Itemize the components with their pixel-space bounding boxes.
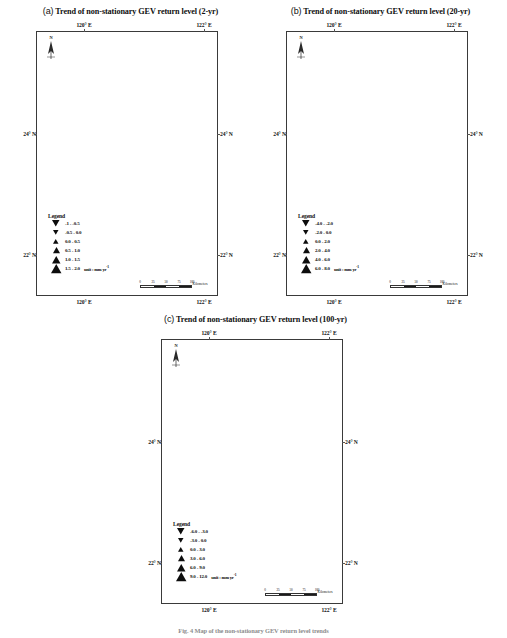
legend-unit: unit : mm yr-1 [211, 573, 236, 580]
tick-top-120 [334, 29, 335, 32]
tick-right-22 [467, 255, 470, 256]
panel-b-title-text: Trend of non-stationary GEV return level… [303, 7, 470, 16]
panel-b-axis-top-right: 122° E [446, 22, 461, 28]
north-arrow-icon [294, 40, 308, 60]
tick-right-24 [467, 134, 470, 135]
north-arrow-icon [44, 40, 58, 60]
down-triangle-icon [298, 230, 314, 235]
tick-left-22 [159, 563, 162, 564]
scalebar-tick-label: 50 [415, 280, 418, 284]
up-triangle-icon [298, 239, 314, 244]
legend-entry: 0.5 - 1.0 [48, 246, 109, 255]
panel-c-compass: N [169, 343, 183, 368]
legend-entry: 0.0 - 2.0 [298, 237, 359, 246]
legend-entry: 3.0 - 6.0 [173, 554, 236, 563]
panel-b-tag: (b) [291, 6, 302, 16]
up-triangle-icon [173, 547, 189, 552]
figure-root: (a) Trend of non-stationary GEV return l… [0, 0, 507, 638]
tick-right-24 [217, 134, 220, 135]
panel-a-axis-bottom-right: 122° E [196, 299, 211, 305]
legend-entry-label: 0.0 - 2.0 [315, 239, 330, 244]
legend-entries: -1 - -0.5-0.5 - 0.00.0 - 0.50.5 - 1.01.0… [48, 219, 109, 273]
legend-unit: unit : mm yr-1 [84, 265, 109, 272]
panel-a-axis-top-right: 122° E [196, 22, 211, 28]
panel-a-axis-bottom-left: 120° E [76, 299, 91, 305]
panel-c-axis-top-right: 122° E [321, 330, 336, 336]
panel-b-axis-top-left: 120° E [326, 22, 341, 28]
legend-entry-label: 0.5 - 1.0 [65, 248, 80, 253]
scalebar-tick-label: 0 [264, 588, 266, 592]
legend-entry-label: -1 - -0.5 [65, 221, 79, 226]
scalebar-tick-label: 0 [389, 280, 391, 284]
panel-a-title-text: Trend of non-stationary GEV return level… [55, 7, 218, 16]
down-triangle-icon [173, 528, 189, 535]
legend-entry: 4.0 - 6.0 [298, 255, 359, 264]
legend-entry: -1 - -0.5 [48, 219, 109, 228]
scalebar-tick-label: 50 [165, 280, 168, 284]
panel-a-axis-top-left: 120° E [76, 22, 91, 28]
panel-b-title: (b) Trend of non-stationary GEV return l… [258, 6, 503, 16]
panel-c-title: (c) Trend of non-stationary GEV return l… [133, 314, 378, 324]
legend-entry: -3.0 - 0.0 [173, 536, 236, 545]
panel-a-tag: (a) [43, 6, 54, 16]
scalebar-tick-label: 50 [290, 588, 293, 592]
panel-a-axis-left-bottom: 22° N [8, 252, 36, 258]
legend-entry-label: -6.0 - -3.0 [190, 529, 208, 534]
tick-left-22 [284, 255, 287, 256]
panel-b-axis-right-bottom: 22° N [470, 252, 483, 258]
tick-top-122 [329, 337, 330, 340]
scalebar-unit: Kilometers [318, 590, 333, 594]
up-triangle-icon [48, 256, 64, 263]
north-arrow-icon [169, 348, 183, 368]
scalebar-tick-label: 75 [303, 588, 306, 592]
up-triangle-icon [298, 256, 314, 263]
panel-b-compass: N [294, 35, 308, 60]
scalebar-ticks: 0255075100 [140, 280, 192, 285]
panel-a-scalebar: 0255075100 Kilometers [140, 280, 192, 288]
tick-top-120 [84, 29, 85, 32]
tick-left-24 [34, 134, 37, 135]
scalebar-tick-label: 0 [139, 280, 141, 284]
up-triangle-icon [173, 555, 189, 561]
panel-b-axis-left-bottom: 22° N [258, 252, 286, 258]
legend-entry: 2.0 - 4.0 [298, 246, 359, 255]
legend-entry-label: -4.0 - -2.0 [315, 221, 333, 226]
panel-b-axis-bottom-left: 120° E [326, 299, 341, 305]
legend-entry-label: 9.0 - 12.0 [190, 574, 207, 579]
panel-a-compass: N [44, 35, 58, 60]
panel-b-legend: Legend -4.0 - -2.0-2.0 - 0.00.0 - 2.02.0… [298, 213, 359, 273]
panel-c-axis-left-bottom: 22° N [133, 560, 161, 566]
panel-c-tag: (c) [164, 314, 174, 324]
panel-c-title-text: Trend of non-stationary GEV return level… [176, 315, 347, 324]
scalebar-tick-label: 25 [277, 588, 280, 592]
scalebar-bar [140, 285, 192, 288]
tick-top-120 [209, 337, 210, 340]
panel-b-scalebar: 0255075100 Kilometers [390, 280, 442, 288]
legend-entry: 6.0 - 8.0unit : mm yr-1 [298, 264, 359, 273]
legend-entry-label: -0.5 - 0.0 [65, 230, 81, 235]
up-triangle-icon [173, 572, 189, 581]
legend-entry: 1.5 - 2.0unit : mm yr-1 [48, 264, 109, 273]
panel-c-axis-left-top: 24° N [133, 439, 161, 445]
tick-left-22 [34, 255, 37, 256]
scalebar-tick-label: 25 [402, 280, 405, 284]
legend-entry: 0.0 - 0.5 [48, 237, 109, 246]
panel-c-axis-bottom-right: 122° E [321, 607, 336, 613]
scalebar-ticks: 0255075100 [390, 280, 442, 285]
panel-c-axis-bottom-left: 120° E [201, 607, 216, 613]
panel-c-axis-right-top: 24° N [345, 439, 358, 445]
tick-right-22 [217, 255, 220, 256]
legend-entry-label: 1.5 - 2.0 [65, 266, 80, 271]
legend-entry-label: -2.0 - 0.0 [315, 230, 331, 235]
legend-unit: unit : mm yr-1 [334, 265, 359, 272]
tick-top-122 [204, 29, 205, 32]
legend-entry: 6.0 - 9.0 [173, 563, 236, 572]
up-triangle-icon [298, 264, 314, 273]
legend-entry: -2.0 - 0.0 [298, 228, 359, 237]
panel-b: (b) Trend of non-stationary GEV return l… [258, 6, 503, 311]
figure-caption: Fig. 4 Map of the non-stationary GEV ret… [0, 627, 507, 638]
legend-entry-label: 0.0 - 0.5 [65, 239, 80, 244]
legend-entries: -6.0 - -3.0-3.0 - 0.00.0 - 3.03.0 - 6.06… [173, 527, 236, 581]
panel-a-axis-left-top: 24° N [8, 131, 36, 137]
panel-c-axis-top-left: 120° E [201, 330, 216, 336]
